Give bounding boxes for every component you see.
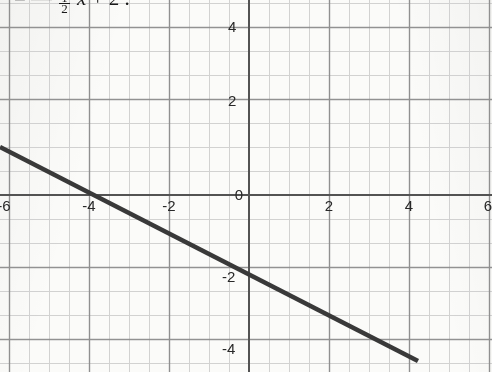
- equation-constant: 2: [109, 0, 120, 10]
- equation-period: .: [125, 0, 130, 10]
- y-tick-label--4: -4: [222, 341, 235, 356]
- major-gridlines: [0, 0, 492, 372]
- y-tick-label--2: -2: [222, 269, 235, 284]
- equation-minus: —: [31, 0, 52, 10]
- equation-plus: +: [92, 0, 104, 10]
- x-tick-label--4: -4: [82, 198, 95, 213]
- equation-equals: =: [14, 0, 26, 10]
- x-axis: [0, 194, 492, 196]
- equation-variable: x: [77, 0, 86, 10]
- x-tick-label--6: -6: [0, 198, 11, 213]
- equation-fraction-denominator: 2: [59, 4, 70, 14]
- x-tick-label--2: -2: [162, 198, 175, 213]
- equation-fraction: 1 2: [59, 0, 70, 14]
- y-tick-label-2: 2: [228, 93, 236, 108]
- y-axis: [248, 0, 250, 372]
- minor-gridlines: [0, 0, 492, 372]
- y-tick-label-4: 4: [228, 19, 236, 34]
- plotted-line: [0, 0, 492, 372]
- graph-figure: -6 -4 -2 0 2 4 6 4 2 -2 -4 = — 1 2 x + 2…: [0, 0, 492, 372]
- x-tick-label-6: 6: [484, 198, 492, 213]
- x-tick-label-4: 4: [405, 198, 413, 213]
- paper-background: [0, 0, 492, 372]
- x-tick-label-0: 0: [235, 187, 243, 202]
- x-tick-label-2: 2: [325, 198, 333, 213]
- equation-text: = — 1 2 x + 2 .: [14, 0, 130, 9]
